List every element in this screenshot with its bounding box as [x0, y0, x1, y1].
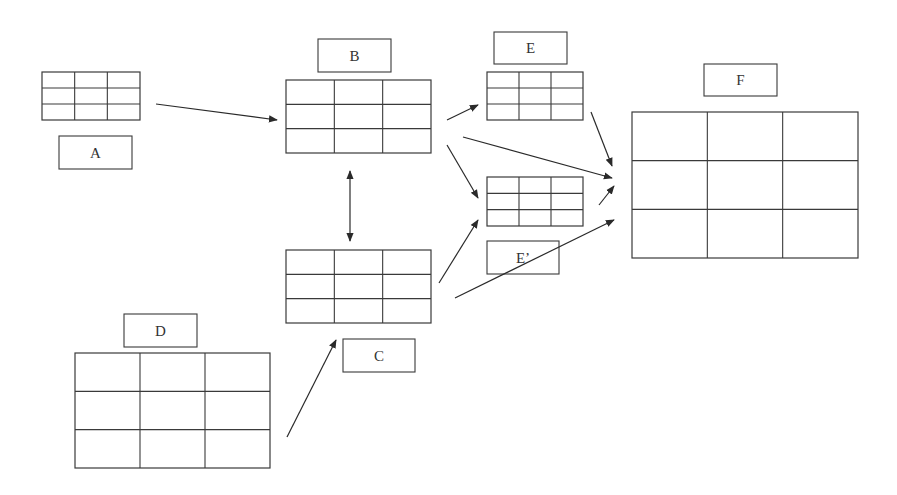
label-text-a: A: [90, 145, 101, 161]
label-text-e2: E’: [516, 250, 530, 266]
labels-layer: ABCDEE’F: [59, 32, 777, 372]
label-text-d: D: [155, 323, 166, 339]
table-c: [286, 250, 431, 323]
tables-layer: [42, 72, 858, 468]
label-text-c: C: [374, 348, 384, 364]
arrow-e-to-f: [591, 112, 612, 166]
arrow-d-to-c: [287, 340, 336, 437]
table-a: [42, 72, 140, 120]
label-text-f: F: [736, 72, 744, 88]
table-b: [286, 80, 431, 153]
table-e2: [487, 177, 583, 226]
label-text-b: B: [349, 48, 359, 64]
label-box-f: F: [704, 64, 777, 96]
label-text-e: E: [526, 40, 535, 56]
diagram-canvas: ABCDEE’F: [0, 0, 897, 495]
label-box-e: E: [494, 32, 567, 64]
arrow-e2-to-f: [599, 186, 614, 205]
label-box-d: D: [124, 314, 197, 347]
arrow-b-to-e: [447, 105, 478, 120]
arrow-b-to-f: [463, 137, 612, 178]
table-d: [75, 353, 270, 468]
arrow-c-to-e2: [439, 220, 478, 283]
arrow-a-to-b: [156, 104, 277, 120]
label-box-b: B: [318, 39, 391, 72]
table-e: [487, 72, 583, 120]
label-box-a: A: [59, 136, 132, 169]
label-box-c: C: [343, 339, 415, 372]
arrow-c-to-f: [455, 220, 614, 298]
label-box-e2: E’: [487, 241, 559, 274]
table-f: [632, 112, 858, 258]
arrow-b-to-e2: [447, 145, 478, 198]
